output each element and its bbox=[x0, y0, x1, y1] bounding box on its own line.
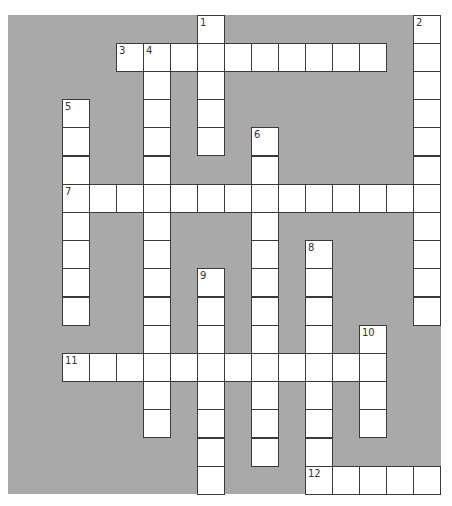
crossword-cell-r16-c7[interactable] bbox=[197, 466, 225, 495]
crossword-cell-r3-c7[interactable] bbox=[197, 99, 225, 128]
crossword-cell-r7-c9[interactable] bbox=[251, 212, 279, 241]
crossword-cell-r13-c11[interactable] bbox=[305, 381, 333, 410]
crossword-cell-r9-c15[interactable] bbox=[413, 268, 441, 297]
crossword-cell-r12-c13[interactable] bbox=[359, 353, 387, 382]
crossword-cell-r9-c9[interactable] bbox=[251, 268, 279, 297]
crossword-cell-r14-c7[interactable] bbox=[197, 409, 225, 438]
crossword-cell-r8-c9[interactable] bbox=[251, 240, 279, 269]
crossword-cell-r1-c4[interactable]: 3 bbox=[116, 43, 144, 72]
crossword-cell-r15-c9[interactable] bbox=[251, 438, 279, 467]
crossword-cell-r6-c7[interactable] bbox=[197, 184, 225, 213]
crossword-cell-r8-c11[interactable]: 8 bbox=[305, 240, 333, 269]
crossword-cell-r10-c7[interactable] bbox=[197, 297, 225, 326]
crossword-cell-r4-c7[interactable] bbox=[197, 127, 225, 156]
crossword-cell-r1-c10[interactable] bbox=[278, 43, 306, 72]
crossword-cell-r1-c6[interactable] bbox=[170, 43, 198, 72]
crossword-cell-r8-c5[interactable] bbox=[143, 240, 171, 269]
crossword-cell-r16-c12[interactable] bbox=[332, 466, 360, 495]
crossword-cell-r11-c13[interactable]: 10 bbox=[359, 325, 387, 354]
crossword-cell-r12-c8[interactable] bbox=[224, 353, 252, 382]
crossword-cell-r12-c3[interactable] bbox=[89, 353, 117, 382]
crossword-cell-r5-c15[interactable] bbox=[413, 156, 441, 185]
crossword-cell-r12-c5[interactable] bbox=[143, 353, 171, 382]
crossword-cell-r12-c7[interactable] bbox=[197, 353, 225, 382]
crossword-cell-r6-c2[interactable]: 7 bbox=[62, 184, 90, 213]
crossword-cell-r6-c10[interactable] bbox=[278, 184, 306, 213]
crossword-cell-r8-c2[interactable] bbox=[62, 240, 90, 269]
crossword-cell-r1-c8[interactable] bbox=[224, 43, 252, 72]
crossword-cell-r4-c5[interactable] bbox=[143, 127, 171, 156]
crossword-cell-r1-c11[interactable] bbox=[305, 43, 333, 72]
crossword-cell-r11-c7[interactable] bbox=[197, 325, 225, 354]
crossword-cell-r0-c7[interactable]: 1 bbox=[197, 15, 225, 44]
crossword-cell-r16-c14[interactable] bbox=[386, 466, 414, 495]
crossword-cell-r10-c15[interactable] bbox=[413, 297, 441, 326]
crossword-cell-r12-c11[interactable] bbox=[305, 353, 333, 382]
crossword-cell-r9-c2[interactable] bbox=[62, 268, 90, 297]
crossword-cell-r2-c5[interactable] bbox=[143, 71, 171, 100]
crossword-cell-r1-c5[interactable]: 4 bbox=[143, 43, 171, 72]
crossword-cell-r9-c7[interactable]: 9 bbox=[197, 268, 225, 297]
crossword-cell-r7-c5[interactable] bbox=[143, 212, 171, 241]
crossword-cell-r13-c5[interactable] bbox=[143, 381, 171, 410]
crossword-cell-r6-c11[interactable] bbox=[305, 184, 333, 213]
crossword-cell-r11-c9[interactable] bbox=[251, 325, 279, 354]
crossword-cell-r1-c15[interactable] bbox=[413, 43, 441, 72]
crossword-cell-r6-c13[interactable] bbox=[359, 184, 387, 213]
crossword-cell-r6-c5[interactable] bbox=[143, 184, 171, 213]
crossword-cell-r5-c9[interactable] bbox=[251, 156, 279, 185]
crossword-cell-r14-c9[interactable] bbox=[251, 409, 279, 438]
crossword-cell-r9-c11[interactable] bbox=[305, 268, 333, 297]
crossword-cell-r6-c14[interactable] bbox=[386, 184, 414, 213]
crossword-cell-r16-c11[interactable]: 12 bbox=[305, 466, 333, 495]
crossword-cell-r6-c8[interactable] bbox=[224, 184, 252, 213]
crossword-cell-r3-c15[interactable] bbox=[413, 99, 441, 128]
crossword-cell-r6-c6[interactable] bbox=[170, 184, 198, 213]
crossword-cell-r11-c11[interactable] bbox=[305, 325, 333, 354]
crossword-cell-r13-c7[interactable] bbox=[197, 381, 225, 410]
crossword-cell-r6-c15[interactable] bbox=[413, 184, 441, 213]
crossword-cell-r6-c9[interactable] bbox=[251, 184, 279, 213]
crossword-cell-r14-c11[interactable] bbox=[305, 409, 333, 438]
crossword-cell-r6-c4[interactable] bbox=[116, 184, 144, 213]
crossword-cell-r3-c2[interactable]: 5 bbox=[62, 99, 90, 128]
crossword-cell-r6-c12[interactable] bbox=[332, 184, 360, 213]
crossword-cell-r10-c2[interactable] bbox=[62, 297, 90, 326]
crossword-cell-r1-c13[interactable] bbox=[359, 43, 387, 72]
crossword-cell-r7-c2[interactable] bbox=[62, 212, 90, 241]
crossword-cell-r10-c11[interactable] bbox=[305, 297, 333, 326]
crossword-cell-r12-c12[interactable] bbox=[332, 353, 360, 382]
crossword-cell-r15-c7[interactable] bbox=[197, 438, 225, 467]
crossword-cell-r14-c13[interactable] bbox=[359, 409, 387, 438]
crossword-cell-r16-c13[interactable] bbox=[359, 466, 387, 495]
crossword-cell-r8-c15[interactable] bbox=[413, 240, 441, 269]
crossword-cell-r6-c3[interactable] bbox=[89, 184, 117, 213]
crossword-cell-r1-c7[interactable] bbox=[197, 43, 225, 72]
crossword-cell-r14-c5[interactable] bbox=[143, 409, 171, 438]
crossword-cell-r9-c5[interactable] bbox=[143, 268, 171, 297]
crossword-cell-r2-c7[interactable] bbox=[197, 71, 225, 100]
crossword-cell-r10-c5[interactable] bbox=[143, 297, 171, 326]
crossword-cell-r12-c9[interactable] bbox=[251, 353, 279, 382]
crossword-cell-r3-c5[interactable] bbox=[143, 99, 171, 128]
crossword-cell-r10-c9[interactable] bbox=[251, 297, 279, 326]
crossword-cell-r16-c15[interactable] bbox=[413, 466, 441, 495]
crossword-cell-r12-c4[interactable] bbox=[116, 353, 144, 382]
crossword-cell-r12-c10[interactable] bbox=[278, 353, 306, 382]
crossword-cell-r15-c11[interactable] bbox=[305, 438, 333, 467]
crossword-cell-r12-c2[interactable]: 11 bbox=[62, 353, 90, 382]
crossword-cell-r4-c9[interactable]: 6 bbox=[251, 127, 279, 156]
crossword-cell-r5-c5[interactable] bbox=[143, 156, 171, 185]
crossword-cell-r12-c6[interactable] bbox=[170, 353, 198, 382]
crossword-cell-r13-c9[interactable] bbox=[251, 381, 279, 410]
crossword-cell-r2-c15[interactable] bbox=[413, 71, 441, 100]
crossword-cell-r5-c2[interactable] bbox=[62, 156, 90, 185]
crossword-cell-r4-c2[interactable] bbox=[62, 127, 90, 156]
crossword-cell-r13-c13[interactable] bbox=[359, 381, 387, 410]
crossword-cell-r7-c15[interactable] bbox=[413, 212, 441, 241]
crossword-cell-r4-c15[interactable] bbox=[413, 127, 441, 156]
crossword-cell-r11-c5[interactable] bbox=[143, 325, 171, 354]
crossword-cell-r0-c15[interactable]: 2 bbox=[413, 15, 441, 44]
crossword-cell-r1-c9[interactable] bbox=[251, 43, 279, 72]
crossword-cell-r1-c12[interactable] bbox=[332, 43, 360, 72]
